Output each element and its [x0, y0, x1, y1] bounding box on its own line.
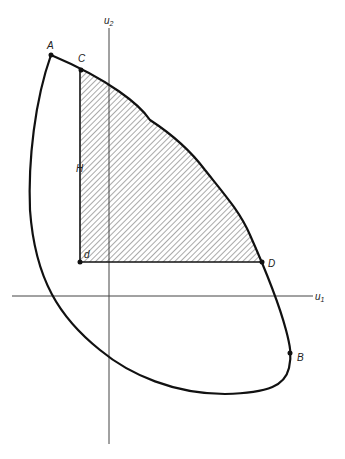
- point-b: [288, 351, 293, 356]
- label-b: B: [297, 352, 304, 363]
- point-d-disagreement: [78, 260, 83, 265]
- label-a: A: [46, 40, 54, 51]
- label-d: D: [268, 258, 275, 269]
- label-d-small: d: [84, 249, 90, 260]
- label-c: C: [78, 53, 86, 64]
- label-u2: u2: [104, 15, 114, 27]
- label-h: H: [76, 163, 84, 174]
- point-d: [260, 260, 265, 265]
- point-a: [49, 53, 54, 58]
- label-u1: u1: [315, 291, 325, 303]
- utility-possibility-diagram: A C H d D B u1 u2: [0, 0, 345, 459]
- point-c: [79, 68, 84, 73]
- hatched-region-h: [80, 70, 262, 262]
